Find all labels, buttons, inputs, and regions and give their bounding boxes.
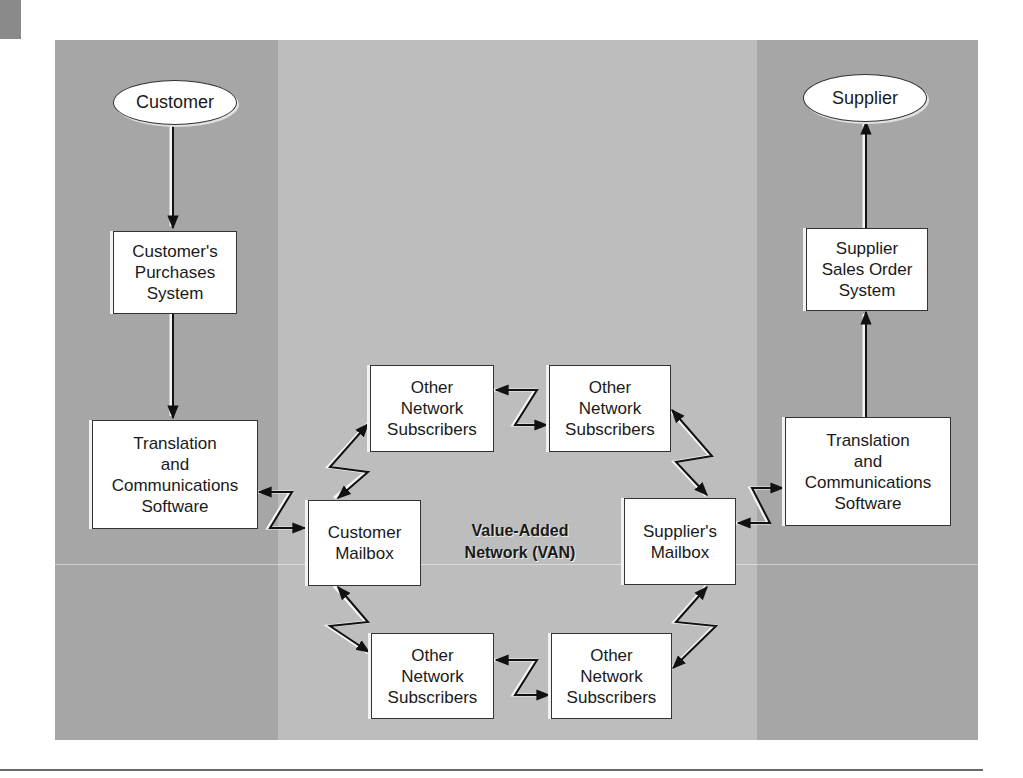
customer-mailbox-box: Customer Mailbox xyxy=(308,500,421,586)
other-subscribers-top-right-label: Other Network Subscribers xyxy=(565,377,655,440)
customer-purchases-system-label: Customer's Purchases System xyxy=(132,241,217,304)
other-subscribers-top-left-box: Other Network Subscribers xyxy=(370,365,494,452)
other-subscribers-top-left-label: Other Network Subscribers xyxy=(387,377,477,440)
other-subscribers-bottom-right-label: Other Network Subscribers xyxy=(567,645,657,708)
other-subscribers-bottom-left-label: Other Network Subscribers xyxy=(388,645,478,708)
customer-mailbox-label: Customer Mailbox xyxy=(328,522,402,564)
customer-endpoint: Customer xyxy=(113,80,237,125)
other-subscribers-bottom-left-box: Other Network Subscribers xyxy=(371,633,494,719)
supplier-label: Supplier xyxy=(832,88,898,109)
supplier-sales-order-system-label: Supplier Sales Order System xyxy=(822,238,913,301)
supplier-sales-order-system-box: Supplier Sales Order System xyxy=(806,228,928,311)
customer-translation-software-label: Translation and Communications Software xyxy=(112,433,239,517)
customer-label: Customer xyxy=(136,92,214,113)
van-title: Value-Added Network (VAN) xyxy=(440,520,600,564)
other-subscribers-bottom-right-box: Other Network Subscribers xyxy=(551,633,672,719)
other-subscribers-top-right-box: Other Network Subscribers xyxy=(549,365,671,452)
customer-translation-software-box: Translation and Communications Software xyxy=(92,420,258,529)
supplier-mailbox-label: Supplier's Mailbox xyxy=(643,521,717,563)
supplier-translation-software-box: Translation and Communications Software xyxy=(785,417,951,526)
customer-purchases-system-box: Customer's Purchases System xyxy=(113,231,237,314)
supplier-mailbox-box: Supplier's Mailbox xyxy=(624,498,736,585)
supplier-endpoint: Supplier xyxy=(803,74,927,122)
supplier-translation-software-label: Translation and Communications Software xyxy=(805,430,932,514)
